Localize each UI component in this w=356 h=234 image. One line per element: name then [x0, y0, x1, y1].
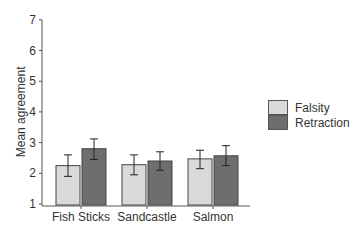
legend-swatch-falsity [268, 100, 288, 115]
legend: Falsity Retraction [268, 100, 350, 130]
x-category-label: Fish Sticks [52, 210, 110, 224]
y-tick-label: 3 [29, 136, 36, 150]
legend-label: Retraction [295, 116, 350, 130]
y-tick-label: 4 [29, 105, 36, 119]
y-tick-label: 6 [29, 44, 36, 58]
y-tick-label: 7 [29, 13, 36, 27]
y-tick-label: 5 [29, 74, 36, 88]
y-tick-label: 2 [29, 166, 36, 180]
y-axis-label: Mean agreement [14, 66, 28, 157]
legend-item-falsity: Falsity [268, 100, 350, 115]
legend-label: Falsity [295, 101, 330, 115]
legend-swatch-retraction [268, 115, 288, 130]
y-tick-label: 1 [29, 197, 36, 211]
x-category-label: Salmon [193, 210, 234, 224]
x-category-label: Sandcastle [117, 210, 177, 224]
legend-item-retraction: Retraction [268, 115, 350, 130]
